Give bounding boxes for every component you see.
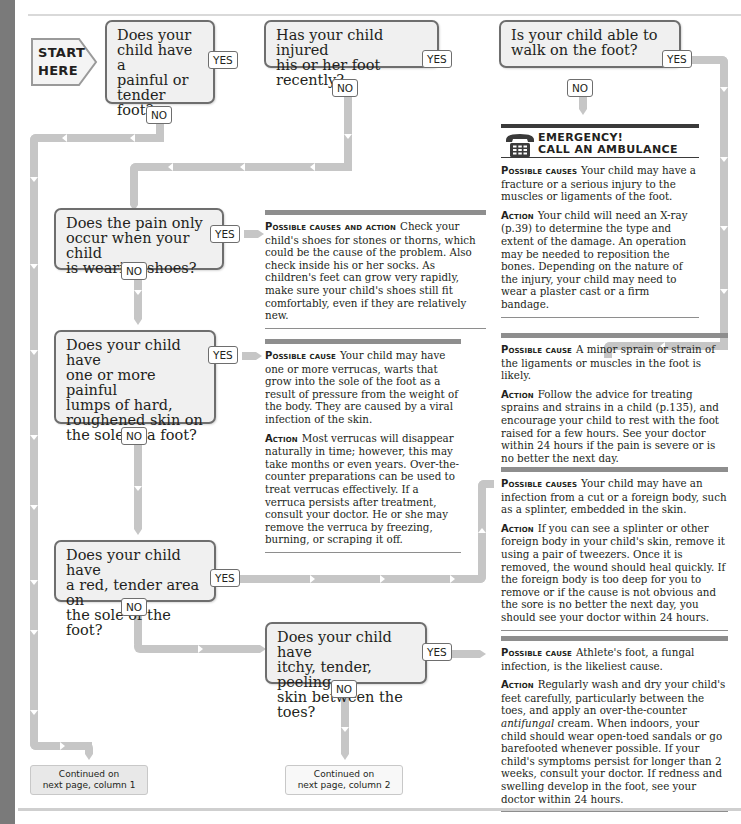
yes-button-q3[interactable]: YES [662, 50, 692, 68]
yes-button-q7[interactable]: YES [422, 643, 452, 661]
emergency-action: ActionYour child will need an X-ray (p.3… [501, 209, 699, 311]
yes-button-q2[interactable]: YES [422, 50, 452, 68]
panel-top-bar [501, 636, 728, 641]
emergency-panel: EMERGENCY! CALL AN AMBULANCE Possible ca… [501, 124, 699, 318]
no-button-q1[interactable]: NO [146, 106, 172, 124]
top-divider [28, 14, 741, 16]
emergency-causes: Possible causesYour child may have a fra… [501, 164, 699, 203]
verruca-panel: Possible causeYour child may have one or… [265, 339, 461, 553]
no-button-q2[interactable]: NO [332, 79, 358, 97]
sprain-cause: Possible causeA minor sprain or strain o… [501, 343, 728, 382]
no-button-q3[interactable]: NO [567, 79, 593, 97]
infection-cause: Possible causesYour child may have an in… [501, 477, 728, 516]
emergency-header: EMERGENCY! CALL AN AMBULANCE [501, 124, 699, 158]
no-button-q4[interactable]: NO [121, 262, 147, 280]
verruca-action: ActionMost verrucas will disappear natur… [265, 432, 461, 546]
page-edge-bar [0, 0, 15, 824]
continued-column-2[interactable]: Continued on next page, column 2 [285, 765, 403, 795]
start-label: START HERE [38, 44, 85, 80]
infection-action: ActionIf you can see a splinter or other… [501, 522, 728, 624]
emergency-title: EMERGENCY! CALL AN AMBULANCE [538, 132, 678, 156]
continued-column-1[interactable]: Continued on next page, column 1 [30, 765, 148, 795]
infection-panel: Possible causesYour child may have an in… [501, 467, 728, 631]
sprain-panel: Possible causeA minor sprain or strain o… [501, 333, 728, 471]
no-button-q7[interactable]: NO [331, 680, 357, 698]
question-able-to-walk: Is your child able to walk on the foot? [499, 20, 681, 68]
question-pain-wearing-shoes: Does the pain only occur when your child… [54, 208, 224, 270]
yes-button-q6[interactable]: YES [210, 569, 240, 587]
no-button-q6[interactable]: NO [121, 598, 147, 616]
start-here-tag: START HERE [29, 36, 99, 87]
question-painful-foot: Does your child have a painful or tender… [105, 20, 215, 104]
question-red-tender-area: Does your child have a red, tender area … [54, 540, 216, 602]
athletes-foot-panel: Possible causeAthlete's foot, a fungal i… [501, 636, 728, 812]
telephone-icon [504, 132, 536, 158]
panel-top-bar [265, 339, 461, 344]
athlete-cause: Possible causeAthlete's foot, a fungal i… [501, 646, 728, 672]
question-itchy-peeling-skin: Does your child have itchy, tender, peel… [265, 622, 427, 684]
yes-button-q5[interactable]: YES [208, 346, 238, 364]
shoes-panel: Possible causes and actionCheck your chi… [265, 210, 486, 329]
panel-top-bar [501, 467, 728, 472]
athlete-action: ActionRegularly wash and dry your child'… [501, 678, 728, 805]
panel-top-bar [501, 333, 728, 338]
question-lumps-hard-skin: Does your child have one or more painful… [54, 330, 216, 424]
sprain-action: ActionFollow the advice for treating spr… [501, 388, 728, 465]
yes-button-q1[interactable]: YES [208, 51, 238, 69]
question-injured-recently: Has your child injured his or her foot r… [264, 20, 439, 68]
panel-top-bar [265, 210, 486, 215]
verruca-cause: Possible causeYour child may have one or… [265, 349, 461, 426]
yes-button-q4[interactable]: YES [210, 225, 240, 243]
shoes-text: Possible causes and actionCheck your chi… [265, 220, 486, 322]
no-button-q5[interactable]: NO [121, 427, 147, 445]
